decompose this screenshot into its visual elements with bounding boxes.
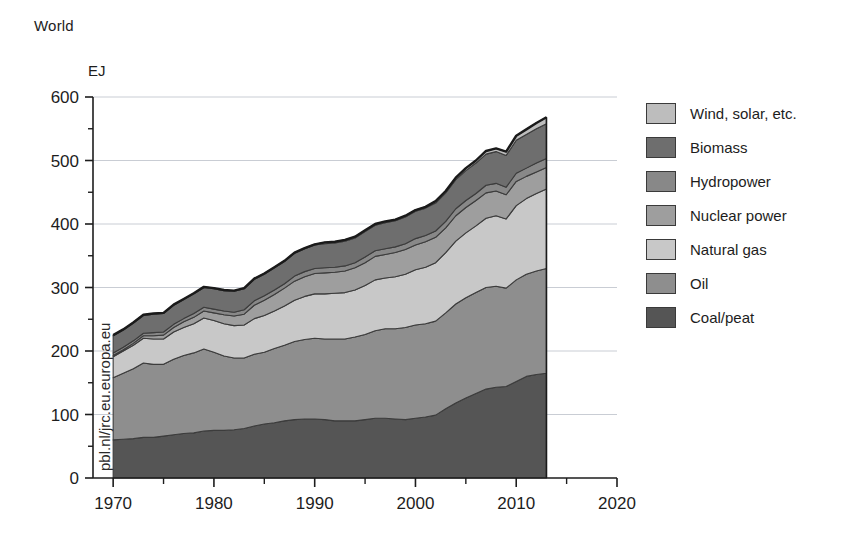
- legend-item[interactable]: Natural gas: [646, 232, 846, 266]
- legend-label: Oil: [690, 276, 708, 291]
- legend-swatch: [646, 171, 676, 192]
- y-tick-label: 100: [51, 406, 79, 425]
- y-tick-label: 200: [51, 342, 79, 361]
- legend-swatch: [646, 137, 676, 158]
- legend-swatch: [646, 205, 676, 226]
- area-series-group: [113, 117, 546, 478]
- chart-container: World EJ 0100200300400500600197019801990…: [0, 0, 854, 545]
- y-tick-label: 500: [51, 152, 79, 171]
- y-tick-label: 400: [51, 215, 79, 234]
- legend-item[interactable]: Wind, solar, etc.: [646, 96, 846, 130]
- legend-label: Natural gas: [690, 242, 767, 257]
- x-tick-label: 1980: [195, 494, 233, 513]
- legend-label: Coal/peat: [690, 310, 754, 325]
- legend-swatch: [646, 307, 676, 328]
- x-tick-label: 2010: [497, 494, 535, 513]
- legend-item[interactable]: Nuclear power: [646, 198, 846, 232]
- x-tick-label: 1970: [94, 494, 132, 513]
- y-tick-label: 0: [70, 469, 79, 488]
- watermark: pbl.nl/jrc.eu.europa.eu: [96, 323, 113, 471]
- legend-item[interactable]: Coal/peat: [646, 300, 846, 334]
- x-tick-label: 2000: [397, 494, 435, 513]
- legend-label: Hydropower: [690, 174, 771, 189]
- y-tick-label: 600: [51, 88, 79, 107]
- legend-swatch: [646, 103, 676, 124]
- chart-legend: Wind, solar, etc.BiomassHydropowerNuclea…: [646, 96, 846, 334]
- legend-item[interactable]: Oil: [646, 266, 846, 300]
- x-tick-label: 2020: [598, 494, 636, 513]
- legend-label: Wind, solar, etc.: [690, 106, 797, 121]
- legend-label: Biomass: [690, 140, 748, 155]
- legend-item[interactable]: Hydropower: [646, 164, 846, 198]
- legend-swatch: [646, 239, 676, 260]
- legend-item[interactable]: Biomass: [646, 130, 846, 164]
- watermark-text: pbl.nl/jrc.eu.europa.eu: [96, 323, 113, 471]
- legend-swatch: [646, 273, 676, 294]
- x-tick-label: 1990: [296, 494, 334, 513]
- legend-label: Nuclear power: [690, 208, 787, 223]
- y-tick-label: 300: [51, 279, 79, 298]
